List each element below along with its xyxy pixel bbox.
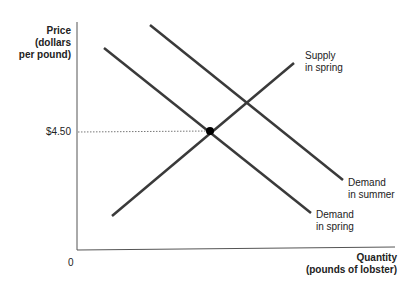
equilibrium-point <box>206 127 214 135</box>
x-axis <box>77 247 395 250</box>
price-guide-line <box>78 131 210 132</box>
demand-summer-label-line-2: in summer <box>348 189 395 201</box>
demand-spring-label-line-2: in spring <box>316 221 354 233</box>
demand-spring-label: Demand in spring <box>316 209 354 233</box>
demand-spring-label-line-1: Demand <box>316 209 354 221</box>
supply-spring-label-line-2: in spring <box>305 62 343 74</box>
y-axis-label-line-1: Price <box>0 25 71 37</box>
supply-spring-label: Supply in spring <box>305 50 343 74</box>
y-axis-label: Price (dollars per pound) <box>0 25 71 61</box>
y-axis-label-line-2: (dollars <box>0 37 71 49</box>
x-axis-label-line-1: Quantity <box>257 252 397 264</box>
x-axis-label-line-2: (pounds of lobster) <box>257 264 397 276</box>
y-axis-label-line-3: per pound) <box>0 49 71 61</box>
demand-summer-label: Demand in summer <box>348 177 395 201</box>
supply-spring-line <box>112 63 294 216</box>
supply-spring-label-line-1: Supply <box>305 50 343 62</box>
y-tick-label: $4.50 <box>11 126 71 138</box>
origin-label: 0 <box>68 257 74 269</box>
demand-summer-label-line-1: Demand <box>348 177 395 189</box>
x-axis-label: Quantity (pounds of lobster) <box>257 252 397 276</box>
